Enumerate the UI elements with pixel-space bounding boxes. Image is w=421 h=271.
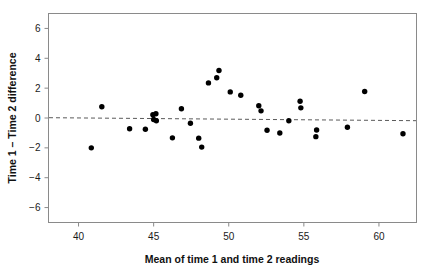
y-tick-label: 4 (35, 53, 41, 64)
x-tick-label: 45 (148, 231, 160, 242)
data-point (214, 75, 219, 80)
data-point (188, 121, 193, 126)
data-point (313, 134, 318, 139)
data-point (127, 126, 132, 131)
data-point (277, 130, 282, 135)
y-tick-label: −2 (29, 142, 41, 153)
y-tick-label: 6 (35, 23, 41, 34)
data-point (314, 127, 319, 132)
data-point (199, 144, 204, 149)
data-point (89, 145, 94, 150)
x-tick-label: 60 (373, 231, 385, 242)
data-point (206, 80, 211, 85)
y-tick-label: −4 (29, 172, 41, 183)
data-point (298, 105, 303, 110)
bland-altman-scatter-chart: 6420−2−4−6 4045505560 Mean of time 1 and… (0, 0, 421, 271)
data-point (286, 118, 291, 123)
data-point (153, 111, 158, 116)
data-point (170, 135, 175, 140)
data-point (143, 127, 148, 132)
data-point (228, 89, 233, 94)
y-tick-label: 2 (35, 83, 41, 94)
data-point (297, 99, 302, 104)
data-point (362, 89, 367, 94)
x-tick-label: 55 (298, 231, 310, 242)
x-tick-label: 50 (223, 231, 235, 242)
data-point (258, 108, 263, 113)
data-point (179, 106, 184, 111)
x-tick-label: 40 (73, 231, 85, 242)
data-point (154, 118, 159, 123)
data-point (400, 131, 405, 136)
data-point (196, 135, 201, 140)
data-point (264, 128, 269, 133)
y-tick-label: −6 (29, 202, 41, 213)
y-axis-title: Time 1 – Time 2 difference (6, 52, 18, 183)
data-point (216, 68, 221, 73)
data-point (345, 125, 350, 130)
y-tick-label: 0 (35, 113, 41, 124)
data-point (99, 104, 104, 109)
chart-background (0, 0, 421, 271)
x-axis-title: Mean of time 1 and time 2 readings (145, 253, 320, 265)
data-point (238, 93, 243, 98)
data-point (256, 103, 261, 108)
